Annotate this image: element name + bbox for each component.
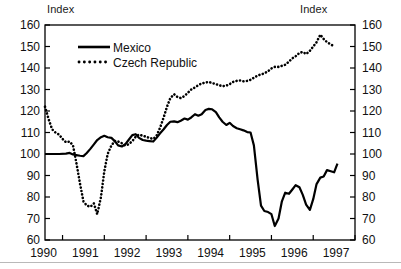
legend-label-mexico: Mexico [113,41,151,55]
plot-area [0,0,401,269]
footer-divider [0,262,401,263]
series-line-mexico [45,109,337,226]
chart-figure: Index Index 6070809010011012013014015016… [0,0,401,269]
legend-label-czech: Czech Republic [113,56,197,70]
legend-marks [78,47,110,62]
